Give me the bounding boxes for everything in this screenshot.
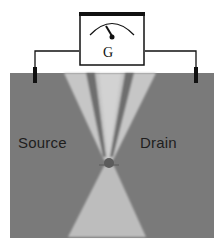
source-label: Source (18, 134, 67, 151)
left-contact (33, 67, 37, 83)
meter-top-bar (79, 12, 145, 16)
junction-diagram (0, 0, 224, 244)
drain-label: Drain (140, 134, 177, 151)
junction-dot (104, 158, 114, 168)
needle-pivot (110, 35, 115, 40)
right-contact (194, 67, 198, 83)
meter-label: G (103, 45, 113, 61)
